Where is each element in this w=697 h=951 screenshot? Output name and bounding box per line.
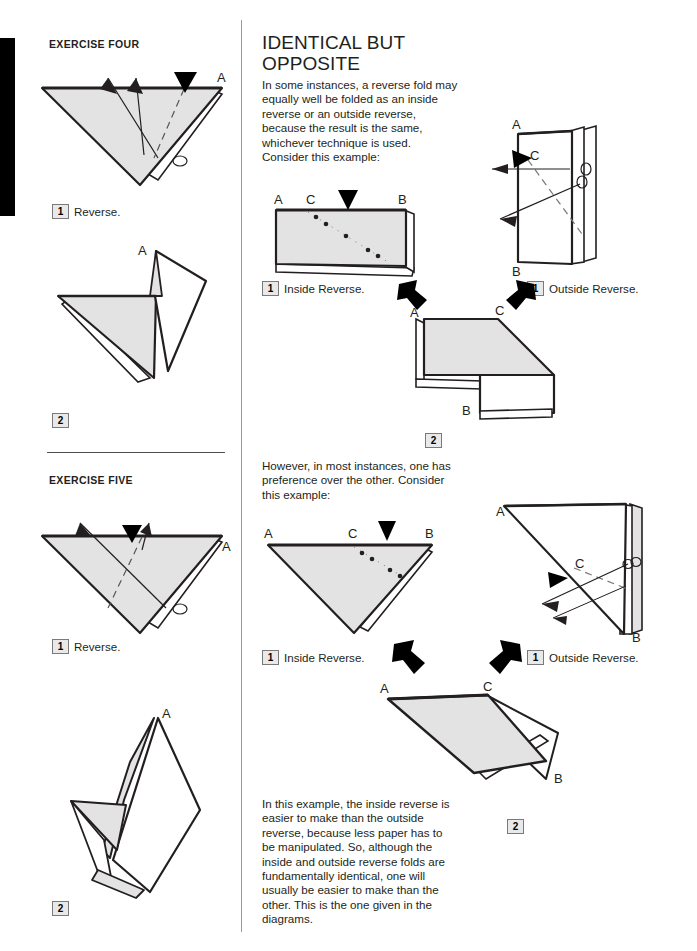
point-label-a: A	[217, 70, 226, 85]
paragraph-two: However, in most instances, one has pref…	[262, 459, 458, 502]
figure-exercise-four-step-1: A	[36, 62, 236, 197]
point-label-c: C	[530, 148, 539, 163]
step-number: 2	[425, 433, 442, 448]
step-exercise-four-2: 2	[52, 413, 74, 428]
step-example-one-outside-reverse: 1 Outside Reverse.	[527, 281, 639, 296]
step-label: Inside Reverse.	[284, 282, 365, 295]
step-example-two-outside-reverse: 1 Outside Reverse.	[527, 650, 639, 665]
point-label-a: A	[264, 526, 273, 541]
step-number: 1	[527, 650, 544, 665]
step-example-two-inside-reverse: 1 Inside Reverse.	[262, 650, 365, 665]
step-example-two-result: 2	[507, 819, 529, 834]
step-exercise-five-1: 1 Reverse.	[52, 639, 120, 654]
figure-example-one-result: A C B	[392, 303, 592, 428]
point-label-a: A	[380, 681, 389, 696]
step-label: Reverse.	[74, 640, 120, 653]
point-label-b: B	[425, 526, 434, 541]
step-number: 1	[52, 639, 69, 654]
figure-example-one-outside-reverse: A C B	[470, 112, 670, 287]
point-label-b: B	[512, 264, 521, 279]
chapter-thumb-tab	[0, 38, 15, 216]
point-label-c: C	[306, 192, 315, 207]
step-number: 2	[52, 901, 69, 916]
point-label-b: B	[632, 630, 641, 645]
point-label-a: A	[512, 117, 521, 132]
point-label-b: B	[398, 192, 407, 207]
step-label: Outside Reverse.	[549, 282, 639, 295]
figure-example-two-outside-reverse: A C B	[470, 494, 670, 654]
point-label-a: A	[274, 192, 283, 207]
exercise-five-separator-rule	[47, 452, 225, 453]
column-divider	[241, 20, 242, 932]
figure-exercise-five-step-1: A	[36, 510, 236, 645]
figure-example-two-inside-reverse: A C B	[262, 515, 452, 645]
point-label-a: A	[410, 305, 419, 320]
point-label-b: B	[554, 771, 563, 786]
step-number: 2	[507, 819, 524, 834]
exercise-five-heading: EXERCISE FIVE	[49, 474, 133, 486]
step-exercise-five-2: 2	[52, 901, 74, 916]
step-example-one-inside-reverse: 1 Inside Reverse.	[262, 281, 365, 296]
step-label: Reverse.	[74, 205, 120, 218]
step-number: 1	[262, 281, 279, 296]
point-label-c: C	[575, 556, 584, 571]
exercise-four-heading: EXERCISE FOUR	[49, 38, 139, 50]
step-example-one-result: 2	[425, 433, 447, 448]
step-exercise-four-1: 1 Reverse.	[52, 204, 120, 219]
figure-exercise-five-step-2: A	[40, 700, 240, 905]
point-label-a: A	[496, 504, 505, 519]
step-number: 1	[262, 650, 279, 665]
figure-exercise-four-step-2: A	[40, 238, 240, 393]
point-label-b: B	[462, 403, 471, 418]
step-label: Outside Reverse.	[549, 651, 639, 664]
figure-example-two-result: A C B	[370, 675, 590, 800]
paragraph-three: In this example, the inside reverse is e…	[262, 797, 458, 927]
point-label-a: A	[162, 706, 171, 721]
figure-example-one-inside-reverse: A C B	[262, 188, 452, 288]
point-label-c: C	[348, 526, 357, 541]
point-label-c: C	[495, 303, 504, 318]
step-number: 2	[52, 413, 69, 428]
point-label-a: A	[222, 539, 231, 554]
point-label-a: A	[138, 243, 147, 258]
point-label-c: C	[483, 679, 492, 694]
step-number: 1	[52, 204, 69, 219]
section-heading: IDENTICAL BUT OPPOSITE	[262, 32, 472, 74]
paragraph-one: In some instances, a reverse fold may eq…	[262, 78, 458, 164]
step-label: Inside Reverse.	[284, 651, 365, 664]
